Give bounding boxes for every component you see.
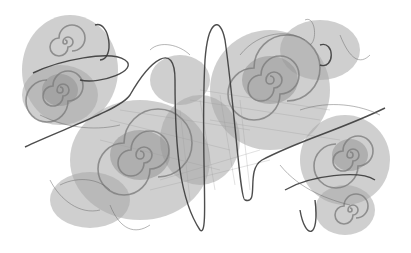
- fractal-image: [0, 0, 411, 253]
